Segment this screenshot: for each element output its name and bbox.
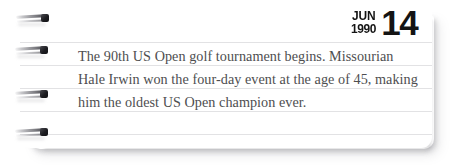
date-month-year: JUN 1990: [350, 9, 377, 38]
note-text: The 90th US Open golf tournament begins.…: [78, 45, 418, 114]
ruled-line: [20, 42, 432, 43]
date-stamp: JUN 1990 14: [350, 9, 417, 38]
notebook-page-widget: JUN 1990 14 The 90th US Open golf tourna…: [0, 0, 458, 165]
ruled-line: [20, 134, 432, 135]
date-year: 1990: [351, 22, 376, 35]
date-month: JUN: [352, 9, 375, 22]
notebook-page: JUN 1990 14 The 90th US Open golf tourna…: [20, 8, 432, 148]
date-day: 14: [381, 9, 417, 38]
